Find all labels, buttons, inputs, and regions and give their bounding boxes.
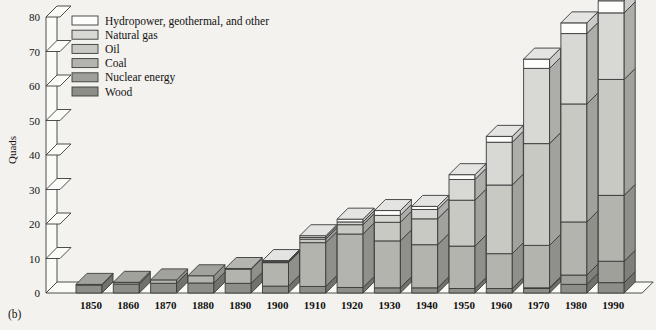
- bar-segment: [524, 133, 561, 246]
- segment-front-face: [300, 286, 326, 293]
- bar-segment: [486, 174, 523, 254]
- segment-front-face: [524, 289, 550, 293]
- bar-column: [374, 200, 411, 293]
- legend-label: Wood: [105, 86, 132, 98]
- bar-column: [263, 250, 300, 293]
- x-tick-label: 1960: [490, 299, 513, 311]
- x-tick-label: 1970: [528, 299, 551, 311]
- segment-front-face: [598, 13, 624, 80]
- y-tick-label: 20: [29, 218, 41, 230]
- segment-side-face: [587, 23, 598, 104]
- x-tick-label: 1890: [229, 299, 252, 311]
- segment-front-face: [486, 185, 512, 254]
- x-tick-label: 1990: [602, 299, 625, 311]
- segment-front-face: [412, 210, 438, 219]
- segment-front-face: [561, 284, 587, 293]
- y-tick-label: 70: [29, 46, 41, 58]
- legend-swatch: [72, 59, 98, 68]
- y-tick-label: 50: [29, 115, 41, 127]
- bar-column: [486, 125, 523, 293]
- segment-front-face: [524, 68, 550, 143]
- segment-front-face: [486, 289, 512, 293]
- legend-swatch: [72, 44, 98, 53]
- segment-front-face: [300, 243, 326, 287]
- x-tick-label: 1900: [267, 299, 290, 311]
- x-tick-label: 1980: [565, 299, 588, 311]
- segment-side-face: [550, 133, 561, 246]
- caption-group: (b): [8, 308, 22, 321]
- segment-front-face: [151, 280, 177, 283]
- segment-front-face: [524, 144, 550, 246]
- x-tick-label: 1950: [453, 299, 476, 311]
- segment-front-face: [449, 179, 475, 200]
- y-tick-label: 0: [35, 287, 41, 299]
- segment-front-face: [486, 136, 512, 142]
- y-axis-title: Quads: [6, 136, 18, 164]
- segment-front-face: [113, 284, 139, 293]
- segment-front-face: [598, 79, 624, 195]
- segment-front-face: [561, 222, 587, 275]
- bar-column: [449, 164, 486, 293]
- segment-front-face: [412, 245, 438, 288]
- legend-label: Coal: [105, 57, 127, 69]
- x-tick-label: 1870: [155, 299, 178, 311]
- segment-front-face: [449, 175, 475, 180]
- legend-swatch: [72, 30, 98, 39]
- segment-front-face: [263, 263, 289, 286]
- segment-front-face: [598, 283, 624, 293]
- segment-front-face: [561, 34, 587, 104]
- segment-front-face: [524, 59, 550, 68]
- y-tick-label: 10: [29, 253, 41, 265]
- segment-front-face: [449, 246, 475, 288]
- segment-front-face: [151, 283, 177, 293]
- segment-front-face: [598, 261, 624, 282]
- legend-label: Oil: [105, 43, 120, 55]
- segment-front-face: [188, 276, 214, 283]
- bar-column: [300, 225, 337, 293]
- segment-front-face: [263, 286, 289, 293]
- segment-front-face: [598, 195, 624, 261]
- legend-swatch: [72, 73, 98, 82]
- bar-column: [337, 208, 374, 293]
- segment-front-face: [374, 215, 400, 222]
- x-tick-label: 1930: [378, 299, 401, 311]
- segment-front-face: [412, 219, 438, 245]
- segment-side-face: [587, 93, 598, 222]
- bar-column: [598, 0, 635, 293]
- x-tick-label: 1910: [304, 299, 327, 311]
- legend-swatch: [72, 16, 98, 25]
- segment-front-face: [598, 1, 624, 13]
- bar-column: [561, 12, 598, 293]
- bar-segment: [598, 184, 635, 261]
- segment-front-face: [374, 241, 400, 288]
- x-tick-label: 1940: [416, 299, 439, 311]
- stacked-bar-chart: 1850186018701880189019001910192019301940…: [0, 0, 656, 330]
- segment-side-face: [624, 2, 635, 80]
- segment-front-face: [412, 288, 438, 293]
- bar-column: [524, 48, 561, 293]
- segment-side-face: [512, 174, 523, 254]
- y-tick-label: 60: [29, 80, 41, 92]
- x-tick-label: 1920: [341, 299, 364, 311]
- y-tick-label: 40: [29, 149, 41, 161]
- bar-column: [412, 195, 449, 293]
- segment-front-face: [225, 283, 251, 293]
- bar-segment: [598, 68, 635, 195]
- segment-front-face: [76, 285, 102, 293]
- segment-front-face: [374, 288, 400, 293]
- y-tick-label: 30: [29, 184, 41, 196]
- bar-segment: [524, 57, 561, 143]
- segment-front-face: [561, 23, 587, 34]
- segment-front-face: [225, 269, 251, 283]
- segment-front-face: [449, 289, 475, 293]
- bar-segment: [561, 93, 598, 222]
- segment-front-face: [374, 222, 400, 241]
- segment-front-face: [561, 104, 587, 222]
- x-tick-label: 1880: [192, 299, 215, 311]
- segment-front-face: [337, 234, 363, 287]
- segment-front-face: [486, 254, 512, 289]
- figure-panel: 1850186018701880189019001910192019301940…: [0, 0, 656, 330]
- segment-front-face: [524, 245, 550, 287]
- panel-caption: (b): [8, 308, 22, 321]
- segment-front-face: [337, 287, 363, 293]
